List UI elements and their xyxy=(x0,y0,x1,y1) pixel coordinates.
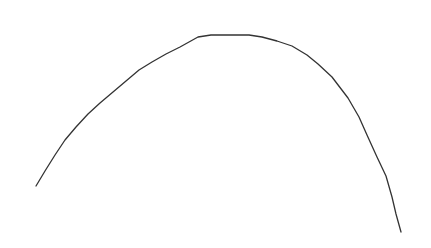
drawing-canvas xyxy=(0,0,431,248)
arch-curve-line xyxy=(36,35,401,232)
curve-drawing xyxy=(0,0,431,248)
